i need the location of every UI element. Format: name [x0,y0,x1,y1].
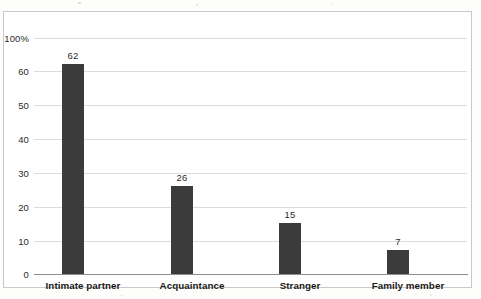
bar-value-label: 15 [285,209,296,220]
y-tick-label-20: 20 [18,202,29,213]
bar-chart: 100% 60 50 40 30 20 10 0 [3,11,472,288]
y-tick-label-40: 40 [18,134,29,145]
bar-value-label: 62 [68,50,79,61]
x-axis-label-intimate-partner: Intimate partner [46,280,121,291]
bar-group-family-member[interactable]: 7 [387,26,409,274]
bar-acquaintance[interactable] [171,186,193,274]
bar-value-label: 7 [395,236,400,247]
x-axis-label-acquaintance: Acquaintance [160,280,225,291]
bar-stranger[interactable] [279,223,301,274]
x-axis-label-family-member: Family member [372,280,445,291]
bar-value-label: 26 [177,172,188,183]
bar-intimate-partner[interactable] [62,64,84,274]
y-tick-label-50: 50 [18,100,29,111]
scan-speck [78,2,81,4]
y-tick-label-10: 10 [18,236,29,247]
scan-speck [120,295,123,296]
y-axis-max-label: 100% [4,33,29,44]
scanned-page: 100% 60 50 40 30 20 10 0 [0,0,481,299]
scan-speck [196,4,198,6]
y-tick-label-0: 0 [24,269,29,280]
bar-group-stranger[interactable]: 15 [279,26,301,274]
x-axis-label-stranger: Stranger [280,280,321,291]
scan-speck [430,294,432,296]
bar-group-acquaintance[interactable]: 26 [171,26,193,274]
bar-family-member[interactable] [387,250,409,274]
x-axis-baseline: 0 [34,274,468,275]
plot-area: 100% 60 50 40 30 20 10 0 [34,26,467,263]
y-tick-label-60: 60 [18,66,29,77]
y-tick-label-30: 30 [18,168,29,179]
bar-group-intimate-partner[interactable]: 62 [62,26,84,274]
scan-speck [331,3,333,4]
